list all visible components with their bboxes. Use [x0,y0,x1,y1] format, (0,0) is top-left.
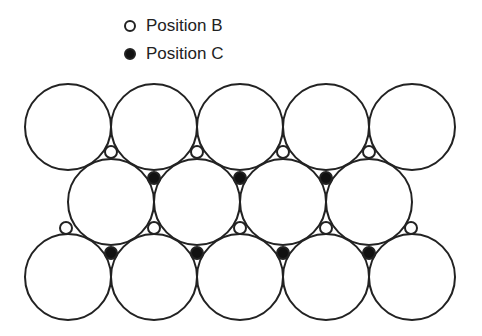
large-sphere [197,84,283,170]
site-b [277,146,289,158]
site-b [363,146,375,158]
site-b [234,222,246,234]
site-c [277,247,289,259]
large-sphere [369,234,455,320]
site-c [363,247,375,259]
large-sphere [25,234,111,320]
large-sphere [369,84,455,170]
site-c [148,172,160,184]
site-b [60,222,72,234]
site-b [148,222,160,234]
site-b [320,222,332,234]
large-sphere [111,84,197,170]
large-sphere [197,234,283,320]
large-sphere [68,159,154,245]
large-sphere [25,84,111,170]
site-b [191,146,203,158]
large-sphere [240,159,326,245]
large-sphere [283,84,369,170]
large-sphere [111,234,197,320]
close-packing-diagram [0,0,482,336]
large-sphere [326,159,412,245]
site-b [405,222,417,234]
site-b [105,146,117,158]
large-sphere [154,159,240,245]
site-c [105,247,117,259]
site-c [234,172,246,184]
large-sphere [283,234,369,320]
site-c [320,172,332,184]
site-c [191,247,203,259]
